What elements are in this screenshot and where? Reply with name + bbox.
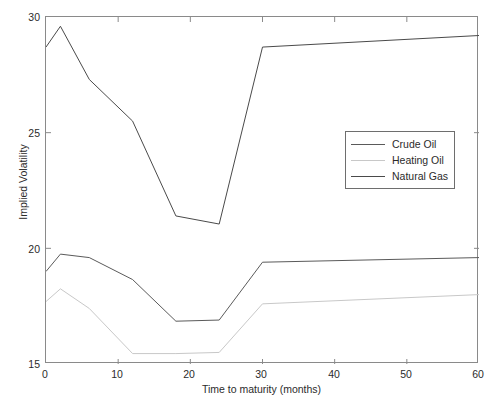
x-axis-title: Time to maturity (months) (45, 383, 478, 395)
legend-item-crude-oil: Crude Oil (351, 136, 448, 152)
implied-volatility-chart: 30 25 20 15 0 10 20 30 40 50 60 Time to … (0, 0, 496, 406)
series-line-natural-gas (46, 26, 479, 224)
legend-label-heating-oil: Heating Oil (392, 154, 444, 166)
x-tick-label-30: 30 (241, 368, 281, 380)
legend-item-natural-gas: Natural Gas (351, 168, 448, 184)
series-line-crude-oil (46, 254, 479, 321)
legend-swatch-natural-gas (351, 176, 385, 177)
series-lines (46, 26, 479, 353)
x-tick-label-20: 20 (169, 368, 209, 380)
x-tick-label-40: 40 (314, 368, 354, 380)
series-line-heating-oil (46, 289, 479, 354)
y-tick-label-30: 30 (6, 11, 40, 23)
legend-swatch-crude-oil (351, 144, 385, 145)
legend-label-crude-oil: Crude Oil (392, 138, 436, 150)
x-tick-label-60: 60 (458, 368, 496, 380)
x-tick-label-10: 10 (97, 368, 137, 380)
legend-item-heating-oil: Heating Oil (351, 152, 448, 168)
legend-swatch-heating-oil (351, 160, 385, 161)
legend: Crude Oil Heating Oil Natural Gas (345, 131, 455, 189)
x-tick-label-0: 0 (25, 368, 65, 380)
axis-ticks (46, 17, 479, 364)
plot-area (45, 16, 478, 363)
x-tick-label-50: 50 (386, 368, 426, 380)
y-axis-title: Implied Volatility (17, 112, 29, 252)
legend-label-natural-gas: Natural Gas (392, 170, 448, 182)
plot-svg (46, 17, 479, 364)
